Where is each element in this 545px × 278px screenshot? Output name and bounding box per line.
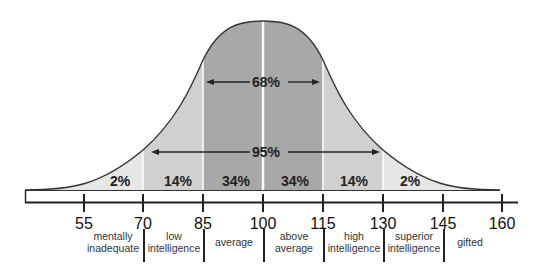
category-line1: high [325,230,383,242]
category-line2: intelligence [385,242,443,254]
category-line1: above [265,230,323,242]
band-label: 2% [400,173,421,189]
category-line2: average [265,242,323,254]
tick-label: 160 [489,215,516,232]
category-line1: mentally [84,230,142,242]
category-mentally-inadequate: mentally inadequate [84,230,142,254]
category-line1: superior [385,230,443,242]
category-line2: inadequate [84,242,142,254]
band-middle-left [143,0,203,190]
band-center-left [203,0,263,190]
category-line1: low [145,230,203,242]
band-label: 14% [164,173,193,189]
band-label: 2% [110,173,131,189]
category-above-average: above average [265,230,323,254]
x-axis [25,190,518,212]
band-outer-left [25,0,143,190]
category-average: average [205,236,263,248]
band-middle-right [323,0,383,190]
category-low-intelligence: low intelligence [145,230,203,254]
band-center-right [263,0,323,190]
category-gifted: gifted [445,236,495,248]
category-line1: gifted [445,236,495,248]
category-line1: average [205,236,263,248]
category-line2: intelligence [145,242,203,254]
category-high-intelligence: high intelligence [325,230,383,254]
category-superior-intelligence: superior intelligence [385,230,443,254]
band-label: 14% [340,173,369,189]
category-line2: intelligence [325,242,383,254]
band-outer-right [383,0,500,190]
distribution-area [25,0,500,190]
range-95-label: 95% [252,144,281,160]
band-label: 34% [222,173,251,189]
band-label: 34% [281,173,310,189]
range-68-label: 68% [252,74,281,90]
